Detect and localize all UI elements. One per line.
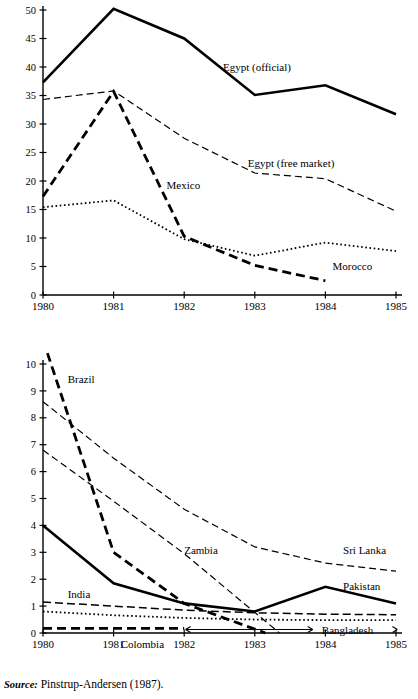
x-tick-label: 1982 [173,300,195,312]
series-line [43,91,396,211]
series-line [43,200,396,255]
x-tick-label: 1981 [103,300,125,312]
y-tick-label: 50 [26,5,37,16]
y-tick-label: 7 [31,439,36,450]
source-prefix: Source: [4,679,38,690]
x-tick-label: 1983 [244,300,267,312]
y-tick-label: 8 [31,412,36,423]
series-label: Pakistan [343,580,381,592]
series-label: Zambia [184,544,218,556]
y-tick-label: 20 [26,176,37,187]
y-tick-label: 0 [31,628,36,639]
y-tick-label: 1 [31,601,36,612]
series-line [43,525,396,611]
x-tick-label: 1983 [244,638,267,650]
series-line [43,9,396,114]
y-tick-label: 0 [31,290,36,301]
y-tick-label: 5 [31,493,36,504]
series-label: Egypt (free market) [248,157,335,170]
x-tick-label: 1985 [385,638,408,650]
series-label: Bangladesh [322,624,374,636]
x-tick-label: 1980 [32,638,55,650]
series-line [43,611,396,620]
source-note: Source: Pinstrup-Andersen (1987). [4,678,163,690]
y-tick-label: 3 [31,547,36,558]
x-tick-label: 1984 [314,638,337,650]
x-tick-label: 1980 [32,300,55,312]
y-tick-label: 6 [31,466,36,477]
figure-container: 0510152025303540455019801981198219831984… [0,0,418,699]
y-tick-label: 25 [26,147,37,158]
series-label: Mexico [167,179,201,191]
series-label: Egypt (official) [223,61,291,74]
series-label: Sri Lanka [343,544,386,556]
y-tick-label: 35 [26,90,37,101]
y-tick-label: 9 [31,386,36,397]
y-tick-label: 10 [26,233,37,244]
x-tick-label: 1982 [173,638,195,650]
y-tick-label: 15 [26,204,37,215]
chart-bottom: 012345678910198019811982198319841985Braz… [0,350,418,675]
chart-bottom-svg: 012345678910198019811982198319841985Braz… [0,350,418,675]
series-label: Brazil [68,373,95,385]
y-tick-label: 5 [31,261,36,272]
x-tick-label: 1985 [385,300,408,312]
chart-top: 0510152025303540455019801981198219831984… [0,0,418,330]
y-tick-label: 40 [26,62,37,73]
y-tick-label: 10 [26,359,37,370]
y-tick-label: 45 [26,33,37,44]
chart-top-svg: 0510152025303540455019801981198219831984… [0,0,418,330]
source-text: Pinstrup-Andersen (1987). [41,678,164,690]
y-tick-label: 30 [26,119,37,130]
series-label: Colombia [121,638,165,650]
y-tick-label: 4 [31,520,37,531]
series-label: Morocco [332,260,372,272]
x-tick-label: 1984 [314,300,337,312]
series-label: India [68,588,91,600]
y-tick-label: 2 [31,574,36,585]
